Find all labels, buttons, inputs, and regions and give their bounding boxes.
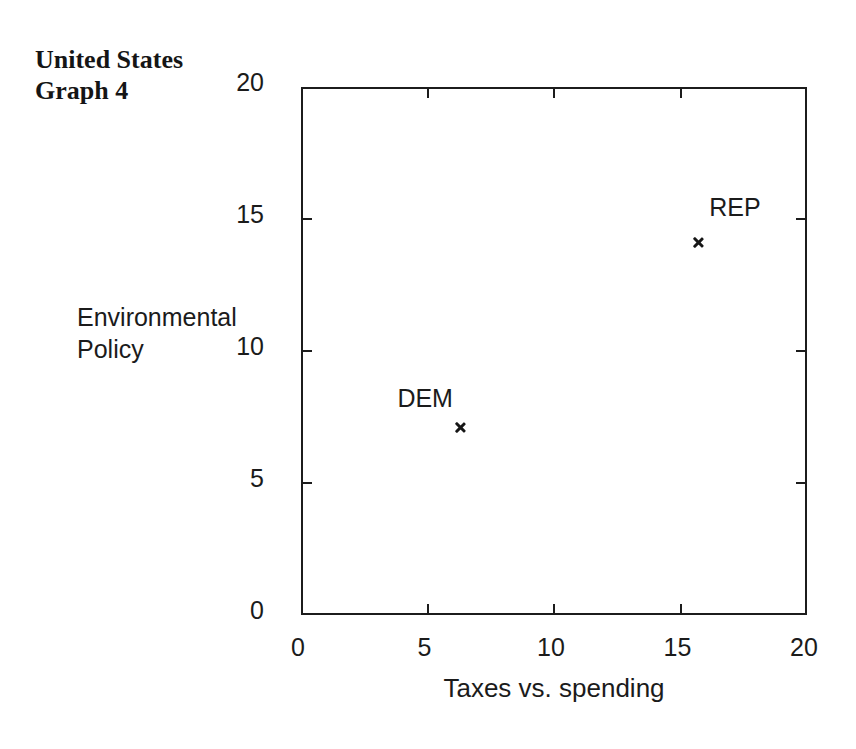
- x-tick-label-10: 10: [516, 632, 586, 662]
- x-axis-title: Taxes vs. spending: [404, 673, 704, 704]
- x-tick-label-20: 20: [769, 632, 839, 662]
- data-point-label-rep: REP: [709, 193, 760, 221]
- y-tick-label-20: 20: [204, 67, 264, 97]
- y-tick-mark-right-10: [796, 350, 805, 352]
- y-tick-mark-right-5: [796, 482, 805, 484]
- x-tick-mark-bottom-5: [427, 604, 429, 613]
- x-tick-mark-top-5: [427, 89, 429, 98]
- y-tick-label-0: 0: [204, 595, 264, 625]
- x-tick-mark-bottom-15: [680, 604, 682, 613]
- y-tick-mark-left-10: [303, 350, 312, 352]
- data-point-marker-dem: [454, 421, 467, 434]
- x-tick-label-0: 0: [263, 632, 333, 662]
- x-tick-label-15: 15: [643, 632, 713, 662]
- y-tick-label-5: 5: [204, 463, 264, 493]
- data-point-marker-rep: [692, 236, 705, 249]
- x-tick-mark-top-10: [553, 89, 555, 98]
- y-tick-mark-left-15: [303, 218, 312, 220]
- plot-area: [301, 87, 807, 615]
- y-tick-label-10: 10: [204, 331, 264, 361]
- scanned-chart-page: United States Graph 4 Environmental Poli…: [0, 0, 856, 749]
- graph-title-line1: United States: [35, 44, 183, 75]
- data-point-label-dem: DEM: [397, 384, 453, 412]
- y-tick-mark-right-15: [796, 218, 805, 220]
- y-axis-title-line1: Environmental: [77, 301, 237, 333]
- x-tick-mark-top-15: [680, 89, 682, 98]
- y-tick-mark-left-5: [303, 482, 312, 484]
- graph-title: United States Graph 4: [35, 44, 183, 106]
- x-tick-label-5: 5: [390, 632, 460, 662]
- y-tick-label-15: 15: [204, 199, 264, 229]
- graph-title-line2: Graph 4: [35, 75, 183, 106]
- x-tick-mark-bottom-10: [553, 604, 555, 613]
